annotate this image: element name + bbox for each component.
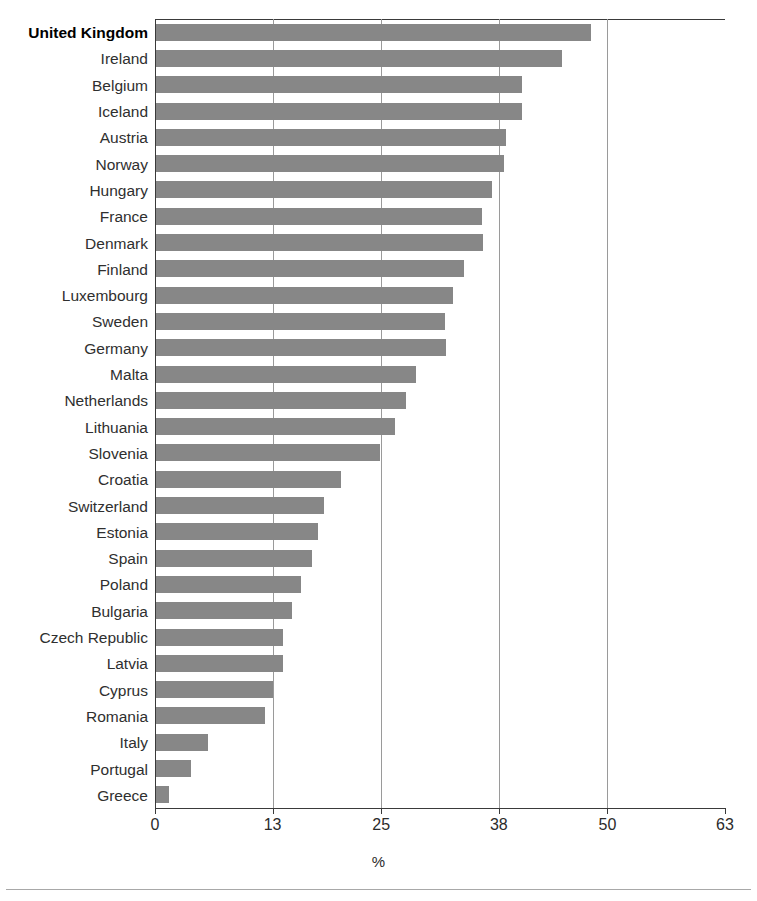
bar bbox=[156, 103, 522, 120]
bar-row: Portugal bbox=[0, 755, 757, 781]
bar bbox=[156, 339, 446, 356]
bar bbox=[156, 497, 324, 514]
category-label: Cyprus bbox=[0, 682, 148, 699]
bar-row: Hungary bbox=[0, 177, 757, 203]
category-label: Iceland bbox=[0, 103, 148, 120]
bar-row: Italy bbox=[0, 729, 757, 755]
category-label: Germany bbox=[0, 340, 148, 357]
bar bbox=[156, 234, 483, 251]
category-label: Belgium bbox=[0, 77, 148, 94]
category-label: Sweden bbox=[0, 313, 148, 330]
category-label: Spain bbox=[0, 550, 148, 567]
x-tick-label-25: 25 bbox=[372, 816, 390, 834]
bar-row: Romania bbox=[0, 703, 757, 729]
category-label: Denmark bbox=[0, 235, 148, 252]
category-label: Ireland bbox=[0, 50, 148, 67]
category-label: Bulgaria bbox=[0, 603, 148, 620]
bar bbox=[156, 260, 464, 277]
bar-row: United Kingdom bbox=[0, 19, 757, 45]
bar bbox=[156, 129, 506, 146]
bar bbox=[156, 471, 341, 488]
x-tick-label-13: 13 bbox=[264, 816, 282, 834]
bar-row: Finland bbox=[0, 256, 757, 282]
bar-row: Bulgaria bbox=[0, 598, 757, 624]
bar bbox=[156, 707, 265, 724]
bar bbox=[156, 392, 406, 409]
bar bbox=[156, 418, 395, 435]
x-tick-63 bbox=[725, 808, 726, 814]
bar bbox=[156, 313, 445, 330]
bar-row: Austria bbox=[0, 124, 757, 150]
bar-row: Cyprus bbox=[0, 677, 757, 703]
category-label: Netherlands bbox=[0, 392, 148, 409]
x-tick-label-50: 50 bbox=[598, 816, 616, 834]
bar bbox=[156, 786, 169, 803]
x-axis-title: % bbox=[0, 853, 757, 870]
bar-row: Switzerland bbox=[0, 492, 757, 518]
category-label: Croatia bbox=[0, 471, 148, 488]
bar bbox=[156, 602, 292, 619]
bar-row: Estonia bbox=[0, 519, 757, 545]
bar bbox=[156, 681, 273, 698]
bar-row: Germany bbox=[0, 335, 757, 361]
bar bbox=[156, 50, 562, 67]
x-tick-label-38: 38 bbox=[490, 816, 508, 834]
bar-row: Denmark bbox=[0, 229, 757, 255]
bar-row: Luxembourg bbox=[0, 282, 757, 308]
bar-row: Malta bbox=[0, 361, 757, 387]
category-label: Czech Republic bbox=[0, 629, 148, 646]
bar-row: Latvia bbox=[0, 650, 757, 676]
bar bbox=[156, 629, 283, 646]
bar-chart: 01325385063 United KingdomIrelandBelgium… bbox=[0, 0, 757, 901]
bar-row: Slovenia bbox=[0, 440, 757, 466]
bar-row: France bbox=[0, 203, 757, 229]
bar bbox=[156, 444, 380, 461]
category-label: Latvia bbox=[0, 655, 148, 672]
x-tick-13 bbox=[273, 808, 274, 814]
bar-row: Iceland bbox=[0, 98, 757, 124]
x-tick-0 bbox=[155, 808, 156, 814]
bar bbox=[156, 366, 416, 383]
bar bbox=[156, 550, 312, 567]
bar bbox=[156, 181, 492, 198]
x-tick-label-63: 63 bbox=[716, 816, 734, 834]
bar bbox=[156, 760, 191, 777]
x-tick-label-0: 0 bbox=[151, 816, 160, 834]
x-tick-25 bbox=[381, 808, 382, 814]
category-label: Greece bbox=[0, 787, 148, 804]
category-label: Romania bbox=[0, 708, 148, 725]
category-label: Finland bbox=[0, 261, 148, 278]
x-tick-50 bbox=[607, 808, 608, 814]
bar-row: Lithuania bbox=[0, 414, 757, 440]
category-label: Switzerland bbox=[0, 498, 148, 515]
category-label: Hungary bbox=[0, 182, 148, 199]
bar bbox=[156, 76, 522, 93]
category-label: Slovenia bbox=[0, 445, 148, 462]
bar-row: Sweden bbox=[0, 308, 757, 334]
bar bbox=[156, 287, 453, 304]
bar-row: Czech Republic bbox=[0, 624, 757, 650]
bar-row: Ireland bbox=[0, 45, 757, 71]
bar-row: Belgium bbox=[0, 72, 757, 98]
bar bbox=[156, 155, 504, 172]
category-label: Estonia bbox=[0, 524, 148, 541]
bar bbox=[156, 734, 208, 751]
category-label: Portugal bbox=[0, 761, 148, 778]
category-label: Luxembourg bbox=[0, 287, 148, 304]
category-label: Malta bbox=[0, 366, 148, 383]
category-label: Norway bbox=[0, 156, 148, 173]
category-label: Lithuania bbox=[0, 419, 148, 436]
bar-row: Greece bbox=[0, 782, 757, 808]
bar bbox=[156, 523, 318, 540]
footer-divider bbox=[6, 889, 751, 890]
x-axis-line bbox=[155, 808, 725, 809]
x-tick-38 bbox=[499, 808, 500, 814]
category-label: France bbox=[0, 208, 148, 225]
bar bbox=[156, 208, 482, 225]
bar-row: Croatia bbox=[0, 466, 757, 492]
category-label: United Kingdom bbox=[0, 24, 148, 41]
category-label: Italy bbox=[0, 734, 148, 751]
bar-row: Poland bbox=[0, 571, 757, 597]
bar bbox=[156, 24, 591, 41]
bar bbox=[156, 655, 283, 672]
